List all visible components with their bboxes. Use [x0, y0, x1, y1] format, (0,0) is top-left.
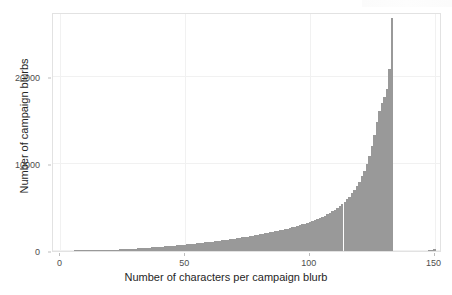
- x-tick-label: 150: [426, 258, 441, 268]
- y-axis-title: Number of campaign blurbs: [18, 6, 30, 246]
- x-axis-title: Number of characters per campaign blurb: [0, 271, 452, 283]
- x-tick-label: 0: [57, 258, 62, 268]
- chart-figure: 01000020000 050100150 Number of characte…: [0, 0, 452, 295]
- x-tick-mark: [184, 253, 185, 256]
- x-tick-label: 50: [179, 258, 189, 268]
- x-tick-label: 100: [301, 258, 316, 268]
- x-tick-mark: [309, 253, 310, 256]
- x-axis-ticks: 050100150: [0, 0, 452, 295]
- x-tick-mark: [59, 253, 60, 256]
- x-tick-mark: [434, 253, 435, 256]
